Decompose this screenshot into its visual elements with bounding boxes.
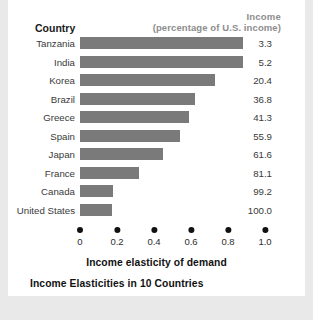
bar — [80, 185, 113, 197]
income-value: 3.3 — [208, 38, 272, 49]
country-label: Tanzania — [8, 38, 75, 49]
country-label: Brazil — [8, 94, 75, 105]
country-column-header: Country — [35, 22, 75, 34]
x-axis-title: Income elasticity of demand — [8, 257, 305, 268]
income-value: 99.2 — [208, 186, 272, 197]
x-axis-tick-label: 0 — [77, 236, 83, 247]
x-axis-tick: 0.4 — [147, 227, 160, 247]
country-label: France — [8, 168, 75, 179]
income-value: 36.8 — [208, 94, 272, 105]
chart-row: United States100.0 — [8, 203, 305, 222]
x-axis-tick: 0.2 — [110, 227, 123, 247]
chart-row: India5.2 — [8, 55, 305, 74]
chart-row: Spain55.9 — [8, 129, 305, 148]
x-axis-tick: 0 — [77, 227, 83, 247]
x-axis-tick: 0.8 — [221, 227, 234, 247]
bar — [80, 167, 139, 179]
income-column-header-line2: (percentage of U.S. income) — [153, 22, 281, 33]
country-label: United States — [8, 205, 75, 216]
x-axis-tick-label: 1.0 — [258, 236, 271, 247]
chart-row: Greece41.3 — [8, 110, 305, 129]
bar — [80, 74, 215, 86]
tick-dot-icon — [114, 227, 120, 233]
country-label: Korea — [8, 75, 75, 86]
x-axis-tick-label: 0.6 — [184, 236, 197, 247]
chart-row: France81.1 — [8, 166, 305, 185]
income-value: 5.2 — [208, 57, 272, 68]
income-column-header-line1: Income — [247, 11, 281, 22]
x-axis-tick-label: 0.8 — [221, 236, 234, 247]
bar — [80, 93, 195, 105]
country-label: Spain — [8, 131, 75, 142]
chart-rows: Tanzania3.3India5.2Korea20.4Brazil36.8Gr… — [8, 36, 305, 221]
tick-dot-icon — [188, 227, 194, 233]
country-label: India — [8, 57, 75, 68]
tick-dot-icon — [262, 227, 268, 233]
bar — [80, 204, 112, 216]
chart-row: Tanzania3.3 — [8, 36, 305, 55]
tick-dot-icon — [77, 227, 83, 233]
chart-row: Japan61.6 — [8, 147, 305, 166]
chart-row: Brazil36.8 — [8, 92, 305, 111]
tick-dot-icon — [151, 227, 157, 233]
x-axis: 00.20.40.60.81.0 — [80, 227, 265, 257]
income-value: 55.9 — [208, 131, 272, 142]
x-axis-tick: 0.6 — [184, 227, 197, 247]
income-value: 81.1 — [208, 168, 272, 179]
chart-card: Income (percentage of U.S. income) Count… — [8, 0, 305, 296]
country-label: Greece — [8, 112, 75, 123]
income-value: 61.6 — [208, 149, 272, 160]
bar — [80, 130, 180, 142]
income-value: 41.3 — [208, 112, 272, 123]
country-label: Japan — [8, 149, 75, 160]
x-axis-tick-label: 0.2 — [110, 236, 123, 247]
bar — [80, 111, 189, 123]
income-value: 20.4 — [208, 75, 272, 86]
chart-row: Canada99.2 — [8, 184, 305, 203]
income-value: 100.0 — [208, 205, 272, 216]
x-axis-tick-label: 0.4 — [147, 236, 160, 247]
chart-row: Korea20.4 — [8, 73, 305, 92]
tick-dot-icon — [225, 227, 231, 233]
x-axis-tick: 1.0 — [258, 227, 271, 247]
income-elasticity-bar-chart: Income (percentage of U.S. income) Count… — [8, 0, 305, 296]
country-label: Canada — [8, 186, 75, 197]
chart-caption: Income Elasticities in 10 Countries — [30, 278, 203, 289]
bar — [80, 148, 163, 160]
